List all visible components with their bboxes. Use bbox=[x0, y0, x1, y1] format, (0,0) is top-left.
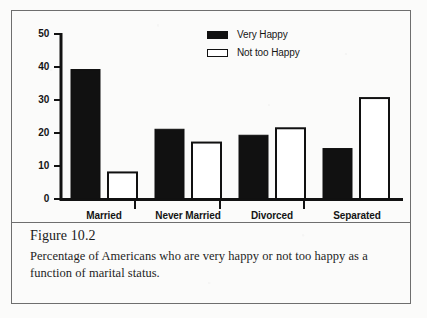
bar-never-married-very-happy bbox=[155, 129, 184, 199]
chart-legend: Very Happy Not too Happy bbox=[207, 27, 300, 63]
figure-caption-title: Figure 10.2 bbox=[30, 228, 398, 244]
legend-label-very-happy: Very Happy bbox=[237, 29, 288, 40]
y-tick-label-20: 20 bbox=[27, 127, 49, 138]
bar-never-married-not-too-happy bbox=[192, 143, 221, 199]
x-category-label-separated: Separated bbox=[314, 210, 400, 221]
y-tick-label-50: 50 bbox=[27, 28, 49, 39]
x-axis-ticks bbox=[135, 200, 304, 209]
bar-married-very-happy bbox=[71, 70, 100, 199]
legend-label-not-too-happy: Not too Happy bbox=[237, 47, 300, 58]
legend-swatch-filled-icon bbox=[207, 31, 228, 39]
caption-divider bbox=[11, 222, 411, 223]
legend-swatch-hollow-icon bbox=[207, 49, 228, 57]
figure-caption-text: Percentage of Americans who are very hap… bbox=[30, 248, 398, 282]
bar-divorced-very-happy bbox=[239, 135, 268, 199]
y-tick-label-10: 10 bbox=[27, 160, 49, 171]
legend-item-not-too-happy: Not too Happy bbox=[207, 45, 300, 60]
x-category-label-married: Married bbox=[64, 210, 144, 221]
figure-caption: Figure 10.2 Percentage of Americans who … bbox=[30, 228, 398, 282]
bar-divorced-not-too-happy bbox=[276, 128, 305, 199]
bar-chart: 50 40 30 20 10 0 Married Never Married D… bbox=[11, 10, 411, 222]
bar-separated-very-happy bbox=[323, 149, 352, 199]
x-category-label-divorced: Divorced bbox=[231, 210, 313, 221]
bar-married-not-too-happy bbox=[108, 172, 137, 199]
x-category-label-never-married: Never Married bbox=[141, 210, 235, 221]
y-tick-label-0: 0 bbox=[27, 193, 49, 204]
legend-item-very-happy: Very Happy bbox=[207, 27, 300, 42]
bar-separated-not-too-happy bbox=[360, 98, 389, 199]
y-tick-label-30: 30 bbox=[27, 94, 49, 105]
y-tick-label-40: 40 bbox=[27, 61, 49, 72]
